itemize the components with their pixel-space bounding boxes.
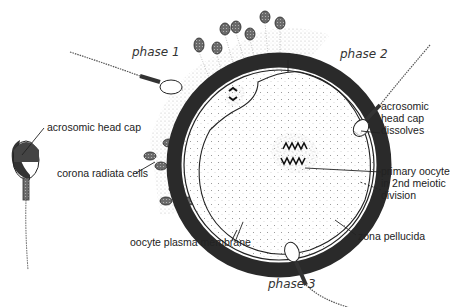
zona-pellucida-label: zona pellucida bbox=[358, 230, 425, 242]
oocyte-plasma-membrane-label: oocyte plasma membrane bbox=[130, 236, 251, 248]
primary-oocyte-line-2: in 2nd meiotic bbox=[381, 177, 450, 189]
phase-2-label: phase 2 bbox=[340, 47, 388, 61]
phase-3-label: phase 3 bbox=[268, 277, 316, 291]
acrosomic-head-cap-label: acrosomic head cap bbox=[47, 121, 141, 133]
acrosomic-dissolves-line-3: dissolves bbox=[381, 124, 429, 136]
primary-oocyte-label: primary oocyte in 2nd meiotic division bbox=[381, 165, 450, 201]
primary-oocyte-line-1: primary oocyte bbox=[381, 165, 450, 177]
sperm-isolated bbox=[12, 140, 39, 270]
corona-radiata-cells-label: corona radiata cells bbox=[57, 167, 148, 179]
acrosomic-dissolves-line-1: acrosomic bbox=[381, 100, 429, 112]
phase-1-label: phase 1 bbox=[132, 45, 180, 59]
acrosomic-dissolves-label: acrosomic head cap dissolves bbox=[381, 100, 429, 136]
primary-oocyte-line-3: division bbox=[381, 189, 450, 201]
acrosomic-dissolves-line-2: head cap bbox=[381, 112, 429, 124]
